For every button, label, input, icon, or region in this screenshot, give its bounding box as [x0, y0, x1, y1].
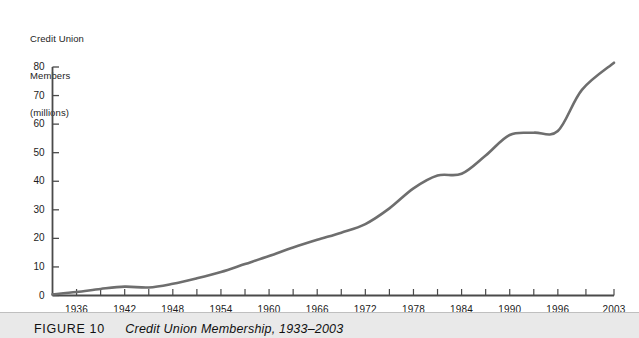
figure-title-label: Credit Union Membership, 1933–2003	[125, 322, 343, 336]
y-tick-label: 20	[21, 233, 45, 243]
y-tick-label: 0	[21, 291, 45, 301]
line-chart-svg	[0, 0, 639, 306]
plot-area: 01020304050607080 1936194219481954196019…	[0, 0, 639, 306]
figure-container: Credit Union Members (millions) 01020304…	[0, 0, 639, 338]
y-tick-label: 60	[21, 119, 45, 129]
y-tick-label: 50	[21, 148, 45, 158]
y-tick-label: 10	[21, 262, 45, 272]
membership-line-series	[53, 63, 615, 295]
y-tick-label: 40	[21, 176, 45, 186]
y-tick-label: 80	[21, 62, 45, 72]
figure-caption: FIGURE 10 Credit Union Membership, 1933–…	[34, 319, 343, 337]
y-axis-tick-marks	[53, 67, 60, 296]
axis-lines	[53, 67, 615, 296]
x-axis-tick-marks	[77, 289, 614, 296]
y-tick-label: 70	[21, 91, 45, 101]
figure-caption-bar: FIGURE 10 Credit Union Membership, 1933–…	[0, 312, 639, 338]
y-tick-label: 30	[21, 205, 45, 215]
figure-number-label: FIGURE 10	[34, 322, 105, 336]
